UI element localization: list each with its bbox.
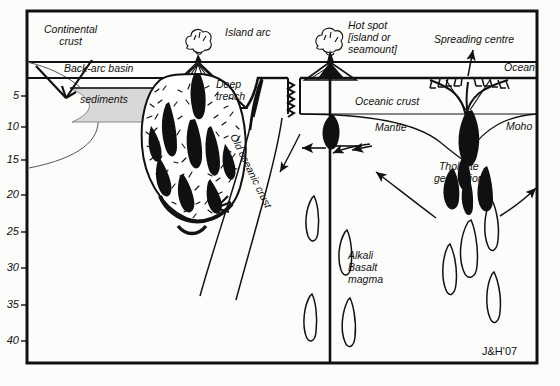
depth-tick-10: 10	[0, 120, 19, 132]
figure-signature: J&H'07	[482, 345, 517, 357]
label-deep-trench: Deep trench	[216, 79, 245, 103]
depth-tick-30: 30	[0, 261, 19, 273]
diagram-svg	[0, 0, 560, 386]
label-oceanic-crust: Oceanic crust	[355, 96, 419, 108]
depth-tick-40: 40	[0, 334, 19, 346]
depth-tick-15: 15	[0, 153, 19, 165]
label-tholeiite-generation: Tholeiite generation	[434, 161, 484, 185]
label-spreading-centre: Spreading centre	[434, 34, 514, 46]
depth-tick-25: 25	[0, 225, 19, 237]
label-moho: Moho	[506, 121, 532, 133]
label-continental-crust: Continental crust	[44, 24, 97, 48]
label-island-arc: Island arc	[225, 27, 271, 39]
label-sediments: sediments	[80, 94, 128, 106]
label-ocean: Ocean	[504, 62, 535, 74]
label-hot-spot: Hot spot [island or seamount]	[348, 20, 397, 55]
label-back-arc-basin: Back-arc basin	[64, 63, 133, 75]
label-alkali-basalt-magma: Alkali Basalt magma	[348, 250, 383, 285]
depth-tick-5: 5	[0, 89, 19, 101]
diagram-canvas: 5 10 15 20 25 30 35 40 Continental crust…	[0, 0, 560, 386]
label-mantle: Mantle	[375, 122, 407, 134]
depth-tick-20: 20	[0, 188, 19, 200]
depth-tick-35: 35	[0, 298, 19, 310]
